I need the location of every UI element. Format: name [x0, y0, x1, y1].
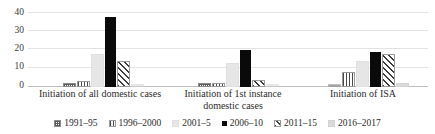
bar-199195-g0: [63, 83, 76, 87]
legend-swatch-icon-1: [109, 120, 116, 127]
legend-swatch-icon-5: [328, 120, 335, 127]
bar-200610-g0: [105, 17, 116, 87]
bar-chart: 40 30 20 10 0 Initiation of all domestic…: [0, 0, 435, 134]
bar-201115-g0: [117, 61, 130, 87]
bar-201115-g1: [252, 80, 265, 88]
bar-20015-g2: [356, 61, 369, 87]
legend-label-0: 1991–95: [64, 118, 97, 128]
x-label-group-1: Initiation of 1st instance domestic case…: [168, 88, 298, 111]
legend-swatch-icon-3: [222, 121, 227, 126]
legend-item-1[interactable]: 1996–2000: [109, 118, 162, 128]
bar-199195-g2: [328, 84, 341, 87]
bar-20162017-g2: [396, 83, 409, 87]
legend-label-3: 2006–10: [230, 118, 263, 128]
chart-legend: 1991–951996–20002001–52006–102011–152016…: [0, 116, 435, 130]
y-tick-10: 10: [0, 62, 24, 71]
bar-201115-g2: [382, 54, 395, 87]
legend-item-0[interactable]: 1991–95: [54, 118, 97, 128]
legend-swatch-icon-0: [54, 120, 61, 127]
legend-item-4[interactable]: 2011–15: [274, 118, 317, 128]
legend-swatch-icon-2: [172, 120, 179, 127]
x-label-group-0: Initiation of all domestic cases: [20, 88, 180, 100]
bar-groups: [28, 12, 428, 87]
y-axis-tick-labels: 40 30 20 10 0: [0, 12, 24, 87]
bar-20015-g0: [91, 54, 104, 87]
bar-group-0: [58, 12, 148, 87]
bar-200610-g2: [370, 52, 381, 87]
legend-label-2: 2001–5: [182, 118, 211, 128]
bar-19962000-g2: [342, 72, 355, 87]
bar-20015-g1: [226, 63, 239, 87]
legend-item-2[interactable]: 2001–5: [172, 118, 211, 128]
legend-swatch-icon-4: [274, 120, 281, 127]
legend-item-5[interactable]: 2016–2017: [328, 118, 381, 128]
bar-19962000-g1: [212, 83, 225, 87]
bar-group-1: [193, 12, 283, 87]
bar-199195-g1: [198, 83, 211, 87]
x-axis-category-labels: Initiation of all domestic cases Initiat…: [28, 88, 428, 114]
y-tick-40: 40: [0, 8, 24, 17]
bar-20162017-g1: [266, 84, 279, 87]
bar-200610-g1: [240, 50, 251, 87]
bar-20162017-g0: [131, 84, 144, 87]
legend-item-3[interactable]: 2006–10: [222, 118, 263, 128]
legend-label-5: 2016–2017: [338, 118, 381, 128]
y-tick-30: 30: [0, 26, 24, 35]
x-label-group-2: Initiation of ISA: [298, 88, 428, 100]
legend-label-4: 2011–15: [284, 118, 317, 128]
bar-19962000-g0: [77, 81, 90, 87]
y-tick-20: 20: [0, 44, 24, 53]
legend-label-1: 1996–2000: [119, 118, 162, 128]
bar-group-2: [323, 12, 413, 87]
